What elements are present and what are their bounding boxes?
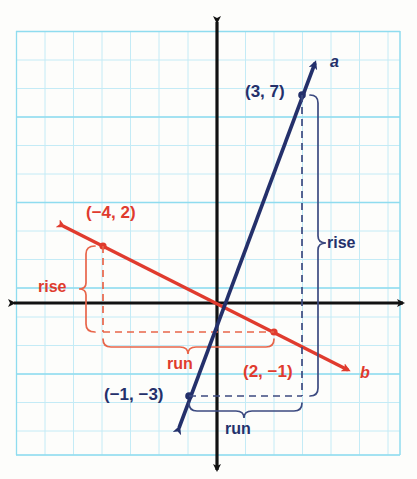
label-rise-a: rise	[327, 234, 355, 252]
label-point-b-bottom: (2, −1)	[243, 362, 293, 382]
line-b	[63, 226, 348, 370]
label-run-a: run	[225, 420, 251, 438]
label-rise-b: rise	[38, 278, 66, 296]
label-run-b: run	[167, 355, 193, 373]
label-line-a: a	[330, 53, 339, 71]
label-point-b-top: (−4, 2)	[86, 203, 136, 223]
brace-rise-b	[79, 246, 95, 332]
label-point-a-top: (3, 7)	[245, 82, 285, 102]
label-line-b: b	[360, 364, 370, 382]
label-point-a-bottom: (−1, −3)	[104, 385, 164, 405]
graph-figure: (3, 7) a rise (−1, −3) run (−4, 2) b ris…	[0, 0, 417, 479]
